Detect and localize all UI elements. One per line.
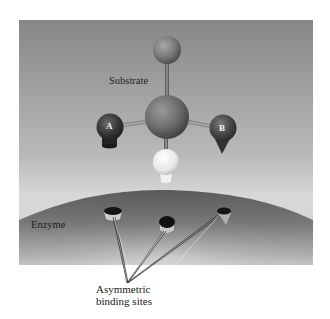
enzyme-substrate-diagram xyxy=(0,0,330,319)
atom-b-label: B xyxy=(219,123,225,133)
binding-site-center xyxy=(159,216,175,233)
binding-sites-label-line2: binding sites xyxy=(96,295,152,307)
central-atom xyxy=(145,95,189,139)
top-atom xyxy=(153,36,181,64)
binding-sites-label-line1: Asymmetric xyxy=(96,283,152,295)
atom-a-label: A xyxy=(106,121,113,131)
substrate-label: Substrate xyxy=(109,75,148,87)
binding-sites-label: Asymmetric binding sites xyxy=(96,283,152,307)
enzyme-label: Enzyme xyxy=(31,219,65,231)
